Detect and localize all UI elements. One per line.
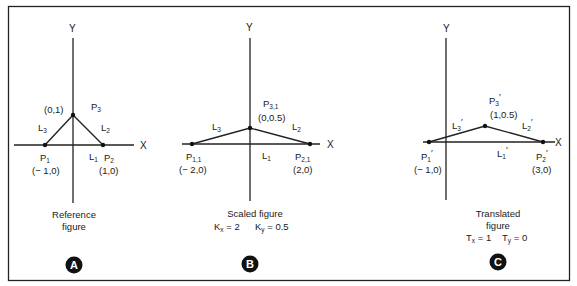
scale-factor-x: Kx = 2 — [214, 221, 240, 233]
x-axis-label: X — [555, 137, 562, 148]
badge-letter: C — [494, 256, 502, 268]
p3-label: P3,1 — [263, 98, 279, 110]
p1-prime-label: P1′ — [421, 147, 433, 163]
point-p1 — [43, 143, 47, 147]
point-p1 — [190, 142, 194, 146]
l2-label: L2 — [101, 122, 110, 134]
translation-x: Tx = 1 — [466, 232, 491, 244]
p3-coord: (0,1) — [44, 104, 64, 115]
y-axis-label: Y — [246, 22, 253, 33]
translation-y: Ty = 0 — [502, 232, 527, 245]
p2-prime-label: P2′ — [536, 147, 548, 163]
scale-factor-y: Ky = 0.5 — [255, 221, 289, 234]
p2-prime-coord: (3,0) — [532, 164, 552, 175]
p1-prime-coord: (− 1,0) — [414, 164, 442, 175]
p1-coord: (− 1,0) — [32, 165, 60, 176]
y-axis-label: Y — [69, 23, 76, 34]
badge-letter: B — [246, 258, 254, 270]
p3-prime-coord: (1,0.5) — [490, 109, 517, 120]
p2-label: P2 — [104, 152, 114, 164]
p3-label: P3 — [91, 101, 101, 113]
l1-label: L1 — [89, 151, 98, 163]
p2-coord: (2,0) — [293, 164, 313, 175]
point-p2 — [308, 142, 312, 146]
y-axis-label: Y — [443, 23, 450, 34]
p1-label: P1 — [40, 152, 50, 164]
caption-line1: Translated — [476, 208, 521, 219]
panel-scaled: Y X P3,1 (0,0.5) L3 L2 L1 P1,1 (− 2,0) P… — [179, 22, 334, 273]
p2-label: P2,1 — [295, 151, 311, 163]
l1-prime-label: L1′ — [497, 144, 508, 160]
transformation-diagram: Y X (0,1) P3 L3 L2 L1 P1 (− 1,0) P2 (1,0… — [0, 0, 577, 286]
point-p1-prime — [427, 140, 431, 144]
caption-line2: figure — [62, 221, 86, 232]
p3-coord: (0,0.5) — [258, 112, 285, 123]
panel-translated: Y X P3′ (1,0.5) L3′ L2′ L1′ P1′ (− 1,0) … — [414, 23, 562, 271]
point-p3-prime — [483, 124, 487, 128]
l2-prime-label: L2′ — [522, 116, 533, 132]
l1-label: L1 — [262, 150, 271, 162]
l3-prime-label: L3′ — [452, 116, 463, 132]
caption-line1: Reference — [52, 209, 96, 220]
panel-reference: Y X (0,1) P3 L3 L2 L1 P1 (− 1,0) P2 (1,0… — [14, 23, 147, 274]
caption-line2: figure — [486, 220, 510, 231]
point-p2-prime — [541, 140, 545, 144]
p1-label: P1,1 — [186, 151, 202, 163]
triangle-edges — [45, 115, 103, 145]
p3-prime-label: P3′ — [489, 91, 501, 107]
point-p2 — [101, 143, 105, 147]
p1-coord: (− 2,0) — [179, 164, 207, 175]
point-p3 — [248, 126, 252, 130]
l2-label: L2 — [292, 121, 301, 133]
caption-line1: Scaled figure — [227, 208, 282, 219]
p2-coord: (1,0) — [99, 165, 119, 176]
x-axis-label: X — [140, 140, 147, 151]
point-p3 — [71, 113, 75, 117]
l3-label: L3 — [212, 121, 221, 133]
x-axis-label: X — [327, 139, 334, 150]
l3-label: L3 — [38, 122, 47, 134]
badge-letter: A — [70, 259, 78, 271]
